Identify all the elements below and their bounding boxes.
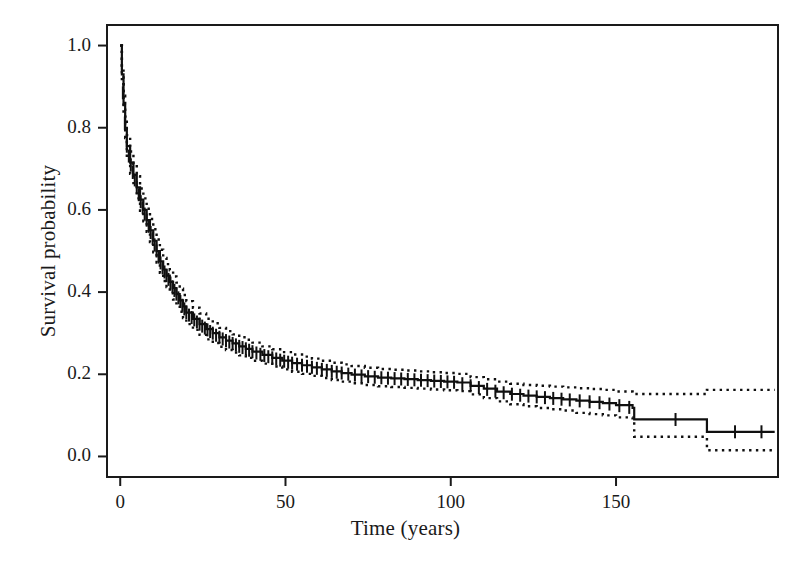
x-tick-label: 150 <box>586 491 646 513</box>
axis-ticks <box>98 46 616 486</box>
survival-curve-figure: Time (years) Survival probability 0.00.2… <box>0 0 811 564</box>
y-tick-label: 0.4 <box>37 280 91 302</box>
x-tick-label: 0 <box>90 491 150 513</box>
y-tick-label: 1.0 <box>37 34 91 56</box>
x-tick-label: 50 <box>255 491 315 513</box>
plot-frame <box>107 25 778 477</box>
y-tick-label: 0.6 <box>37 198 91 220</box>
lower-confidence-band <box>120 46 774 451</box>
y-axis-title: Survival probability <box>36 21 61 481</box>
x-tick-label: 100 <box>421 491 481 513</box>
censor-tick-marks <box>123 86 762 438</box>
y-tick-label: 0.0 <box>37 444 91 466</box>
y-tick-label: 0.8 <box>37 116 91 138</box>
y-tick-label: 0.2 <box>37 362 91 384</box>
plot-canvas <box>0 0 811 564</box>
x-axis-title: Time (years) <box>0 516 811 541</box>
